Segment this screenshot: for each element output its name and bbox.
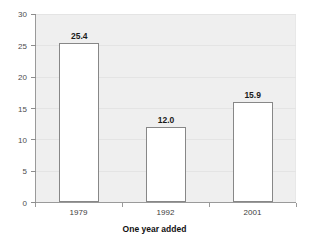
bar-chart: 0 5 10 15 20 25 30 25.4 12.0 15.9 <box>0 0 309 241</box>
y-axis-tick <box>31 171 36 172</box>
y-axis-tick <box>31 139 36 140</box>
x-axis-tick <box>209 203 210 207</box>
plot-area: 25.4 12.0 15.9 <box>35 14 296 203</box>
y-axis-tick <box>31 14 36 15</box>
y-axis-tick <box>31 108 36 109</box>
x-axis-title: One year added <box>0 224 309 234</box>
bar[interactable] <box>233 102 273 202</box>
bar-value-label: 12.0 <box>158 115 175 125</box>
y-axis-labels: 0 5 10 15 20 25 30 <box>0 14 33 203</box>
x-axis-tick <box>296 203 297 207</box>
y-axis-tick-label: 20 <box>18 72 27 81</box>
y-axis-tick-label: 30 <box>18 10 27 19</box>
bar-value-label: 25.4 <box>71 31 88 41</box>
y-axis-tick-label: 5 <box>23 167 27 176</box>
bar[interactable] <box>146 127 186 202</box>
x-axis-tick <box>122 203 123 207</box>
y-axis-tick <box>31 77 36 78</box>
x-axis-labels: 1979 1992 2001 <box>35 208 296 222</box>
bar[interactable] <box>59 43 99 202</box>
bar-value-label: 15.9 <box>244 90 261 100</box>
y-axis-tick-label: 0 <box>23 199 27 208</box>
x-axis-tick <box>35 203 36 207</box>
x-axis-tick-label: 2001 <box>244 208 262 217</box>
y-axis-tick-label: 25 <box>18 41 27 50</box>
x-axis-tick-label: 1992 <box>157 208 175 217</box>
y-axis-tick <box>31 45 36 46</box>
y-axis-tick-label: 15 <box>18 104 27 113</box>
x-axis-tick-label: 1979 <box>70 208 88 217</box>
y-axis-tick-label: 10 <box>18 136 27 145</box>
gridline <box>36 14 296 15</box>
x-axis-ticks <box>35 203 296 207</box>
